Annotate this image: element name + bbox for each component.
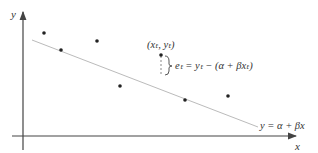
residual-label: eₜ = yₜ − (α + βxₜ) (175, 61, 253, 72)
regression-line-label: y = α + βx (260, 121, 305, 132)
data-point (42, 31, 46, 35)
data-point (226, 94, 230, 98)
data-point (118, 84, 122, 88)
y-axis-label: y (11, 9, 16, 20)
regression-line (32, 40, 258, 127)
regression-diagram: y x (xₜ, yₜ) eₜ = yₜ − (α + βxₜ) y = α +… (0, 0, 318, 153)
data-point (95, 39, 99, 43)
x-axis-label: x (295, 141, 300, 152)
data-point (59, 48, 63, 52)
data-point (183, 98, 187, 102)
data-point-highlighted (159, 53, 163, 57)
residual-brace (165, 56, 172, 75)
point-label: (xₜ, yₜ) (147, 40, 175, 51)
